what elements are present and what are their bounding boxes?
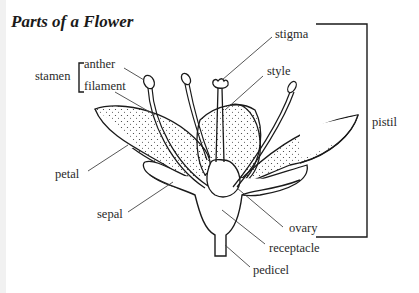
anther-mid <box>180 72 193 86</box>
label-stamen: stamen <box>35 70 70 83</box>
leader-petal <box>88 145 128 171</box>
anther-left <box>142 74 157 91</box>
anther-right <box>286 80 298 94</box>
label-anther: anther <box>84 58 115 71</box>
leader-sepal <box>128 182 173 212</box>
label-pedicel: pedicel <box>253 264 289 277</box>
flower-diagram <box>0 0 419 293</box>
label-pistil: pistil <box>372 116 397 129</box>
stigma <box>213 79 228 89</box>
label-stigma: stigma <box>275 28 308 41</box>
label-filament: filament <box>84 80 126 93</box>
label-ovary: ovary <box>289 222 317 235</box>
label-sepal: sepal <box>97 208 123 221</box>
label-receptacle: receptacle <box>269 242 320 255</box>
leader-pedicel <box>225 245 250 267</box>
label-petal: petal <box>55 168 79 181</box>
leader-stigma <box>222 37 272 80</box>
leader-anther <box>124 68 144 80</box>
label-style: style <box>267 65 291 78</box>
